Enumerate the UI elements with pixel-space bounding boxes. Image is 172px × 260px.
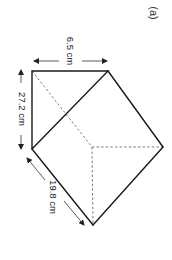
edge-top-right-to-right: [108, 71, 163, 147]
svg-text:19.8 cm: 19.8 cm: [48, 180, 59, 214]
figure-label: (a): [148, 6, 160, 19]
hidden-edge-vertical: [92, 147, 93, 225]
svg-text:(a): (a): [148, 6, 160, 19]
edge-bottom-left-to-bottom: [32, 149, 93, 225]
svg-text:27.2 cm: 27.2 cm: [17, 92, 28, 126]
dimension-slant-length: 19.8 cm: [27, 158, 84, 225]
svg-text:6.5 cm: 6.5 cm: [65, 37, 76, 66]
front-triangle-face: [32, 71, 108, 149]
hidden-edge-diagonal: [32, 71, 92, 147]
dimension-left-height: 27.2 cm: [17, 70, 28, 149]
triangular-prism-diagram: (a) 6.5 cm 27.2 cm 19.8 cm: [0, 0, 172, 260]
dimension-top-width: 6.5 cm: [34, 37, 107, 66]
edge-right-to-bottom: [93, 147, 163, 225]
